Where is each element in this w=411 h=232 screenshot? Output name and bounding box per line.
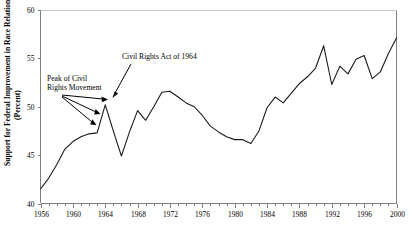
annotation-peak-line1: Peak of Civil [47,74,87,83]
x-tick-label: 1988 [292,210,307,219]
x-tick-label: 1980 [228,210,243,219]
annotation-peak-civil-rights: Peak of Civil Rights Movement [47,74,108,125]
x-tick-label: 1968 [131,210,146,219]
x-tick-label: 1956 [34,210,49,219]
data-series-line [41,38,397,189]
y-tick-label: 45 [27,151,35,160]
annotation-peak-arrowhead-1 [102,97,109,103]
annotation-peak-leader-3 [62,97,92,122]
axes-group [41,10,397,204]
y-tick-label: 60 [27,6,35,15]
x-axis-tick-labels: 1956196019641968197219761980198419881992… [34,210,405,219]
y-tick-label: 50 [27,103,35,112]
annotation-peak-line2: Rights Movement [47,83,103,92]
y-axis-tick-labels: 4045505560 [27,6,35,209]
line-chart: 4045505560 19561960196419681972197619801… [0,0,411,232]
x-tick-label: 1984 [260,210,275,219]
x-tick-label: 2000 [390,210,405,219]
x-tick-label: 1996 [357,210,372,219]
annotation-civil-rights-act-leader [115,64,132,94]
annotation-civil-rights-act-arrowhead [113,92,119,98]
chart-figure: 4045505560 19561960196419681972197619801… [0,0,411,232]
annotation-civil-rights-act-label: Civil Rights Act of 1964 [122,52,197,61]
x-tick-label: 1964 [98,210,113,219]
annotation-peak-arrowhead-3 [90,119,96,125]
x-tick-label: 1976 [195,210,210,219]
x-tick-label: 1992 [325,210,340,219]
y-tick-label: 40 [27,200,35,209]
annotation-civil-rights-act: Civil Rights Act of 1964 [113,52,197,98]
annotation-peak-arrowhead-2 [94,109,100,115]
x-tick-label: 1960 [66,210,81,219]
y-tick-label: 55 [27,54,35,63]
y-axis-title-units: (Percent) [13,90,22,120]
annotation-peak-leader-2 [62,96,96,112]
y-axis-title-main: Support for Federal Improvement in Race … [3,0,12,166]
x-tick-label: 1972 [163,210,178,219]
y-axis-title: Support for Federal Improvement in Race … [3,0,22,166]
